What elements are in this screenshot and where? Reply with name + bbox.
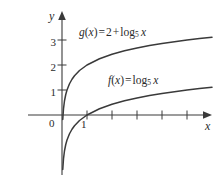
g-log-base: 5 <box>135 30 139 39</box>
curve-label-g: g(x)=2+log5 x <box>79 27 146 39</box>
f-log-base: 5 <box>147 78 151 87</box>
f-log-argument: x <box>153 74 158 86</box>
x-axis-arrowhead <box>203 111 212 119</box>
curve-label-f: f(x)=log5 x <box>108 75 158 87</box>
origin-label: 0 <box>49 118 55 129</box>
g-equals-sign: = <box>98 26 107 38</box>
y-axis-label: y <box>49 10 54 22</box>
f-log-name: log <box>133 74 148 86</box>
logarithmic-functions-figure: y x 0 3 2 1 1 g(x)=2+log5 x f(x)=log5 x <box>0 0 222 188</box>
y-tick-label-1: 1 <box>42 87 56 98</box>
x-axis-label: x <box>205 120 210 132</box>
g-log-argument: x <box>141 26 146 38</box>
g-paren-close: ) <box>94 26 98 38</box>
g-log-name: log <box>120 26 135 38</box>
x-tick-label-1: 1 <box>81 119 87 130</box>
f-equals-sign: = <box>124 74 133 86</box>
y-tick-label-3: 3 <box>42 37 56 48</box>
y-axis-arrowhead <box>58 11 66 20</box>
g-constant: 2 <box>106 26 112 38</box>
y-tick-label-2: 2 <box>42 62 56 73</box>
